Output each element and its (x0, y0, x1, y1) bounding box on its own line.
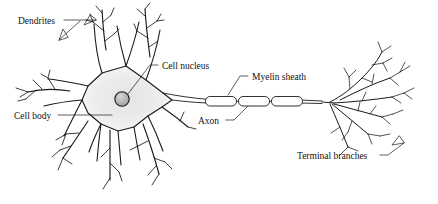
cell-nucleus-group (115, 92, 129, 106)
dendrite-twig-l-2 (33, 80, 42, 89)
dendrite-twig-l-4 (16, 88, 28, 92)
dendrite-twig-ur-2b (157, 14, 161, 21)
terminal-twig-u1b (344, 68, 349, 77)
myelin-sheath-group (206, 97, 303, 107)
dendrite-twig-ll-1 (66, 133, 79, 134)
dendrite-lower-left-stem (63, 121, 88, 158)
dendrite-twig-ur-1 (137, 31, 148, 38)
terminal-twig-ur-b (390, 72, 400, 78)
terminal-twig-m2e (393, 110, 403, 114)
dendrite-trunk-right-lower-edge (162, 107, 188, 127)
terminal-twig-ur-a (372, 74, 374, 84)
terminal-twig-u2a (372, 63, 383, 65)
myelin-segment-1 (206, 97, 237, 107)
dendrite-twig-ll-4 (63, 158, 72, 164)
dendrite-twig-lr-1 (138, 141, 148, 146)
label-cell-nucleus: Cell nucleus (162, 61, 210, 71)
dendrite-trunk-upper-right-edge (126, 22, 139, 66)
terminal-twig-d1d (368, 134, 372, 144)
label-dendrites: Dendrites (18, 16, 55, 26)
dendrite-trunk-upper-left-edge2 (117, 26, 126, 66)
terminal-twig-m1c (392, 97, 401, 103)
dendrite-lower-right-stem (143, 124, 159, 174)
terminal-twig-m1b (392, 93, 404, 97)
terminal-branch-u1 (330, 78, 362, 102)
terminal-twig-m1d (404, 88, 414, 93)
dendrite-twig-lr-3 (152, 174, 159, 185)
dendrite-twig-ur-3 (137, 9, 145, 16)
dendrite-twig-lm-1 (101, 148, 110, 157)
label-myelin-sheath: Myelin sheath (252, 72, 306, 82)
dendrite-twig-ur-2 (147, 21, 157, 28)
label-axon: Axon (198, 116, 219, 126)
dendrite-twig-l-3b (18, 99, 26, 101)
terminal-twig-d1c (368, 134, 380, 136)
leader-line-myelin-sheath (228, 76, 248, 95)
axon-shaft-lower (300, 103, 322, 104)
neuron-diagram: Dendrites Cell nucleus Cell body Myelin … (0, 0, 438, 204)
terminal-twig-ur-c (390, 78, 398, 85)
terminal-hub (322, 102, 334, 103)
dendrite-twig-ul-4 (105, 34, 114, 41)
terminal-twig-m2b (370, 106, 376, 114)
axon-group (163, 93, 322, 106)
axon-shaft-upper (300, 100, 322, 101)
terminal-twig-m2c (382, 114, 393, 117)
terminal-twig-d1e (380, 134, 390, 136)
terminal-twig-u1a (349, 77, 350, 89)
dendrite-twig-l-1c (48, 70, 50, 78)
dendrite-trunk-left-edge (48, 79, 88, 86)
terminal-branch-ur (340, 78, 390, 100)
dendrite-twig-lm-2b (119, 172, 122, 181)
dendrite-twig-rl-2 (188, 127, 196, 129)
leader-line-axon (226, 106, 248, 120)
dendrite-twig-lm-3 (103, 178, 110, 189)
dendrite-twig-ur-2c (157, 20, 164, 21)
dendrite-trunk-lower-right-edge (134, 127, 140, 160)
myelin-segment-3 (272, 97, 303, 107)
leader-arrow-terminal-branches (392, 136, 404, 145)
dendrite-trunk-left-edge2 (44, 100, 82, 106)
dendrite-trunk-lower-left-edge (64, 100, 82, 136)
dendrite-twig-ul-3 (96, 6, 102, 13)
dendrite-twig-ul-2b (111, 8, 114, 15)
terminal-twig-m2a (358, 102, 360, 111)
dendrite-twig-l-5 (20, 92, 28, 97)
dendrite-twig-ul-2 (103, 15, 111, 22)
neuron-illustration: Dendrites Cell nucleus Cell body Myelin … (0, 0, 438, 204)
dendrite-twig-ur-4 (145, 3, 150, 9)
dendrite-twig-lr-2b (165, 162, 172, 169)
terminal-twig-u3 (362, 78, 372, 82)
dendrite-twig-ur-1b (134, 24, 137, 31)
terminal-twig-u2d (378, 42, 382, 52)
myelin-segment-2 (239, 97, 270, 107)
dendrite-trunk-upper-left-edge (94, 24, 102, 73)
terminal-twig-m1a (362, 92, 366, 101)
dendrite-twig-l-1b (41, 74, 48, 78)
axon-hillock-lower (172, 100, 206, 103)
dendrite-trunk-lower-mid-edge (97, 124, 101, 161)
terminal-twig-d1a (348, 121, 352, 132)
label-cell-body: Cell body (14, 111, 51, 121)
terminal-twig-m1e (404, 93, 412, 99)
dendrite-trunk-lower-mid-edge2 (118, 131, 121, 165)
dendrite-twig-lr-4 (148, 166, 156, 175)
dendrites-left-group (16, 70, 88, 106)
label-terminal-branches: Terminal branches (297, 151, 368, 161)
dendrite-twig-lm-2 (110, 163, 119, 172)
terminal-twig-u2b (383, 58, 392, 63)
dendrite-twig-ll-3 (58, 158, 63, 170)
dendrite-twig-rl-1 (180, 112, 184, 121)
terminal-twig-u2e (382, 46, 391, 52)
nucleus-shape (115, 92, 129, 106)
terminal-twig-u1c (349, 70, 356, 77)
terminal-twig-u2c (383, 63, 387, 71)
dendrite-twig-lr-1b (130, 146, 138, 150)
terminal-twig-m2d (382, 117, 390, 124)
dendrite-twig-ll-2b (52, 150, 60, 157)
dendrite-upper-right-stem (145, 9, 150, 57)
terminal-twig-d2a (331, 127, 340, 133)
